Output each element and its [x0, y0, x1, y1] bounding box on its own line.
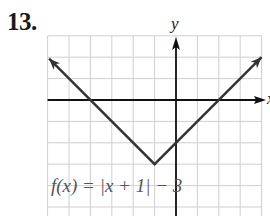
function-label: f(x) = |x + 1| − 3: [51, 175, 182, 197]
absolute-value-curve: [49, 57, 262, 164]
coordinate-plane: x y f(x) = |x + 1| − 3: [0, 0, 270, 216]
graph-figure: 13. x y f(x) = |x + 1| − 3: [0, 0, 270, 216]
x-axis-label: x: [266, 90, 270, 107]
function-graph: [49, 57, 262, 164]
y-axis-label: y: [169, 14, 179, 33]
